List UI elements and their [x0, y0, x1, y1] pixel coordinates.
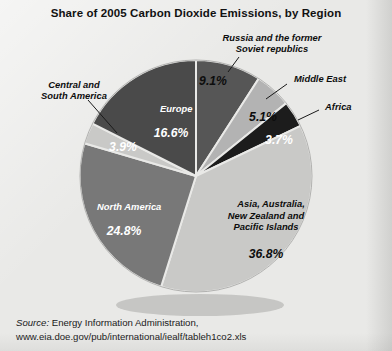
chart-page: Share of 2005 Carbon Dioxide Emissions, …: [0, 0, 392, 351]
label-europe-name: Europe: [160, 103, 192, 114]
label-asia-line1: Asia, Australia,: [237, 198, 304, 209]
label-north-america: North America 24.8%: [62, 190, 186, 262]
source-agency: Energy Information Administration,: [52, 317, 199, 328]
value-russia: 9.1%: [186, 74, 240, 89]
label-asia-line2: New Zealand and: [228, 210, 305, 221]
label-csa-line2: South America: [41, 90, 107, 101]
value-europe: 16.6%: [123, 126, 219, 141]
label-russia-line1: Russia and the former: [223, 32, 322, 43]
label-asia-line3: Pacific Islands: [233, 221, 298, 232]
label-middle-east: Middle East: [294, 73, 346, 84]
label-russia-line2: Soviet republics: [236, 43, 308, 54]
label-russia: Russia and the former Soviet republics: [197, 32, 347, 55]
source-url: www.eia.doe.gov/pub/international/iealf/…: [16, 330, 246, 344]
value-asia-pacific: 36.8%: [198, 247, 334, 262]
label-asia-pacific: Asia, Australia, New Zealand and Pacific…: [198, 187, 334, 285]
label-csa-line1: Central and: [48, 79, 100, 90]
callout-line-africa: [298, 110, 319, 120]
value-middle-east: 5.1%: [237, 110, 289, 125]
pie-drop-shadow: [116, 294, 284, 316]
label-central-south-america: Central and South America: [12, 79, 136, 102]
value-north-america: 24.8%: [62, 224, 186, 239]
source-prefix: Source:: [16, 317, 49, 328]
value-africa: 3.7%: [253, 133, 305, 148]
label-africa: Africa: [325, 101, 352, 112]
source-note: Source: Energy Information Administratio…: [16, 316, 246, 343]
label-europe: Europe 16.6%: [123, 92, 219, 164]
label-north-america-name: North America: [97, 201, 161, 212]
